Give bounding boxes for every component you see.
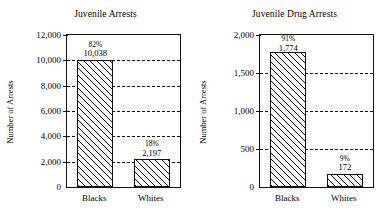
y-tick-mark [63,162,68,163]
bar-blacks [270,52,306,187]
y-tick-mark [256,111,261,112]
chart-title: Juvenile Drug Arrests [193,8,386,20]
bar-count-text: 172 [338,163,351,172]
y-tick-label: 8,000 [41,81,61,91]
y-axis-label: Number of Arrests [198,57,208,167]
bar-whites [134,159,170,187]
x-tick-label-blacks: Blacks [275,193,300,204]
plot-area: 02,0004,0006,0008,00010,00012,00082%10,0… [66,34,181,188]
y-tick-label: 2,000 [41,157,61,167]
bar-value-label: 18%2,197 [142,140,161,157]
y-tick-label: 0 [57,182,62,192]
bar-whites [327,174,363,187]
y-tick-mark [63,60,68,61]
y-tick-label: 500 [241,144,255,154]
x-tick-label-whites: Whites [138,193,164,204]
y-tick-label: 1,500 [234,68,254,78]
y-tick-label: 1,000 [234,106,254,116]
x-tick-label-whites: Whites [331,193,357,204]
y-tick-mark [256,149,261,150]
y-tick-mark [63,35,68,36]
figure-root: Juvenile Arrests Number of Arrests 02,00… [0,0,386,224]
bar-value-label: 9%172 [338,155,351,172]
bar-value-label: 91%1,774 [279,35,298,52]
y-tick-label: 6,000 [41,106,61,116]
chart-juvenile-drug-arrests: Juvenile Drug Arrests Number of Arrests … [193,0,386,224]
bar-count-text: 1,774 [279,44,298,53]
plot-area: 05001,0001,5002,00091%1,7749%172 [259,34,374,188]
y-tick-label: 2,000 [234,30,254,40]
y-tick-label: 0 [250,182,255,192]
y-tick-mark [63,86,68,87]
y-tick-label: 4,000 [41,131,61,141]
y-tick-label: 10,000 [36,55,61,65]
bar-count-text: 2,197 [142,149,161,158]
chart-juvenile-arrests: Juvenile Arrests Number of Arrests 02,00… [0,0,193,224]
y-tick-mark [256,73,261,74]
chart-title: Juvenile Arrests [0,8,193,20]
bar-value-label: 82%10,038 [84,41,107,58]
x-tick-label-blacks: Blacks [82,193,107,204]
y-axis-label: Number of Arrests [5,57,15,167]
bar-count-text: 10,038 [84,49,107,58]
y-tick-mark [63,136,68,137]
y-tick-mark [63,111,68,112]
bar-blacks [77,60,113,187]
y-tick-mark [256,35,261,36]
y-tick-label: 12,000 [36,30,61,40]
